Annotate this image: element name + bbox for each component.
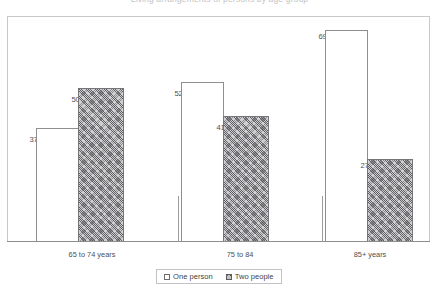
category-label-65-74: 65 to 74 years (22, 250, 162, 260)
category-label-75-84: 75 to 84 (180, 250, 300, 260)
bar-one-person-85plus[interactable] (325, 30, 368, 242)
legend-item-one-person[interactable]: One person (164, 272, 213, 281)
bar-chart-plot-area: 37% 50% 52% 41% 69% 27% (7, 16, 430, 242)
category-axis-line (7, 241, 430, 242)
bar-two-people-65-74[interactable] (78, 88, 124, 242)
bar-two-people-75-84[interactable] (223, 116, 269, 242)
axis-tick-separator (322, 196, 323, 242)
bar-two-people-85plus[interactable] (367, 159, 413, 242)
hatched-square-icon (226, 274, 232, 280)
legend-item-two-people[interactable]: Two people (226, 272, 274, 281)
bar-one-person-65-74[interactable] (36, 128, 79, 242)
legend-label: One person (173, 272, 213, 281)
white-square-icon (164, 274, 170, 280)
clipped-page-title: Living arrangements of persons by age gr… (0, 0, 439, 5)
legend-label: Two people (235, 272, 274, 281)
category-label-85plus: 85+ years (310, 250, 430, 260)
axis-tick-separator (178, 196, 179, 242)
chart-legend: One person Two people (156, 269, 282, 284)
bar-one-person-75-84[interactable] (181, 82, 224, 242)
